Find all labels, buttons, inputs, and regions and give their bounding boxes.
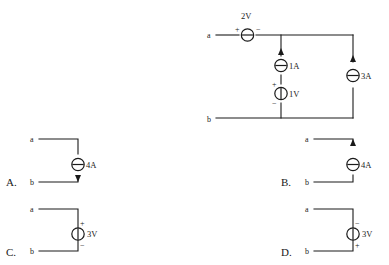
option-c-plus-sign: + <box>80 219 85 228</box>
option-c-source-label: 3V <box>87 229 98 239</box>
option-a-terminal-b-label: b <box>30 178 34 187</box>
source-3a: 3A <box>347 55 372 82</box>
source-2v-minus-sign: − <box>256 25 261 34</box>
source-1v: + − 1V <box>272 80 300 108</box>
option-b-terminal-a-label: a <box>305 135 309 144</box>
option-b[interactable]: B. a b 4A <box>281 135 372 188</box>
main-circuit: a b + − 2V <box>207 11 372 124</box>
option-d-plus-sign: + <box>355 241 360 250</box>
option-b-bottom-wire <box>314 175 353 182</box>
option-b-terminal-b-label: b <box>305 178 309 187</box>
option-c-minus-sign: − <box>80 241 85 250</box>
option-b-letter: B. <box>281 176 291 188</box>
diagram-canvas: a b + − 2V <box>0 0 389 265</box>
source-2v-label: 2V <box>241 11 252 21</box>
option-b-top-wire <box>314 139 353 145</box>
option-a-terminal-a-label: a <box>30 135 34 144</box>
option-d[interactable]: D. a b − + 3V <box>281 205 373 258</box>
option-d-letter: D. <box>281 246 292 258</box>
source-1v-minus-sign: − <box>272 99 277 108</box>
source-1v-plus-sign: + <box>272 80 277 89</box>
option-d-minus-sign: − <box>355 219 360 228</box>
option-d-terminal-b-label: b <box>305 247 309 256</box>
option-c[interactable]: C. a b + − 3V <box>6 205 98 258</box>
option-c-terminal-b-label: b <box>30 247 34 256</box>
option-b-source-label: 4A <box>361 160 372 170</box>
source-2v-plus-sign: + <box>235 25 240 34</box>
source-1a-label: 1A <box>289 61 300 71</box>
source-1a-arrowhead-up <box>278 48 284 55</box>
circuit-diagram-svg: a b + − 2V <box>0 0 389 265</box>
option-c-bottom-wire <box>39 240 78 251</box>
option-d-bottom-wire <box>314 240 353 251</box>
option-c-top-wire <box>39 209 78 228</box>
option-d-source-label: 3V <box>362 229 373 239</box>
option-d-terminal-a-label: a <box>305 205 309 214</box>
option-a-arrowhead-down <box>75 175 81 182</box>
option-a[interactable]: A. a b 4A <box>6 135 97 188</box>
option-b-arrowhead-up <box>350 139 356 146</box>
source-1a: 1A <box>275 48 300 72</box>
source-3a-label: 3A <box>361 71 372 81</box>
option-c-terminal-a-label: a <box>30 205 34 214</box>
option-d-top-wire <box>314 209 353 228</box>
main-terminal-a-label: a <box>207 31 211 40</box>
source-3a-arrowhead-up <box>350 55 356 62</box>
option-a-letter: A. <box>6 176 17 188</box>
main-terminal-b-label: b <box>207 115 211 124</box>
source-1v-label: 1V <box>289 89 300 99</box>
option-a-top-wire <box>39 139 78 154</box>
source-2v: + − 2V <box>235 11 261 41</box>
option-a-source-label: 4A <box>86 160 97 170</box>
option-c-letter: C. <box>6 246 16 258</box>
option-a-bottom-wire <box>39 176 78 182</box>
